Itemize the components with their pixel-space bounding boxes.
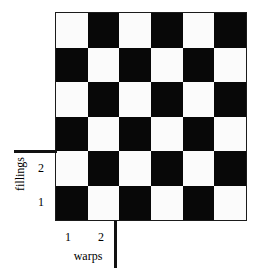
fillings-axis-title: fillings	[14, 148, 26, 200]
fillings-tick-label-1: 1	[33, 196, 49, 208]
weave-cell	[119, 48, 151, 83]
weave-cell	[56, 186, 88, 221]
weave-diagram-figure: fillings 2 1 1 2 warps	[0, 0, 270, 272]
weave-cell	[119, 117, 151, 152]
weave-cell	[119, 186, 151, 221]
weave-cell	[88, 151, 120, 186]
weave-cell	[151, 48, 183, 83]
weave-cell	[119, 151, 151, 186]
warps-axis-title: warps	[59, 250, 117, 262]
weave-cell	[119, 82, 151, 117]
weave-cell	[214, 186, 246, 221]
weave-cell	[56, 82, 88, 117]
weave-cell	[183, 151, 215, 186]
weave-cell	[151, 151, 183, 186]
weave-cell	[56, 48, 88, 83]
weave-cell	[88, 13, 120, 48]
weave-cell	[88, 186, 120, 221]
weave-cell	[151, 13, 183, 48]
weave-cell	[56, 151, 88, 186]
weave-cell	[214, 117, 246, 152]
weave-cell	[56, 13, 88, 48]
weave-cell	[119, 13, 151, 48]
weave-cell	[183, 13, 215, 48]
warps-tick-label-1: 1	[60, 231, 76, 243]
weave-cell	[183, 82, 215, 117]
weave-cell	[214, 13, 246, 48]
weave-grid	[55, 12, 247, 221]
weave-cell	[183, 186, 215, 221]
weave-cell	[183, 117, 215, 152]
weave-cell	[151, 82, 183, 117]
weave-cell	[151, 186, 183, 221]
weave-cell	[183, 48, 215, 83]
warps-tick-label-2: 2	[93, 231, 109, 243]
weave-cell	[88, 117, 120, 152]
weave-cell	[214, 151, 246, 186]
weave-cell	[88, 82, 120, 117]
fillings-tick-label-2: 2	[33, 162, 49, 174]
weave-cell	[214, 48, 246, 83]
weave-cell	[88, 48, 120, 83]
weave-cell	[214, 82, 246, 117]
weave-cell	[56, 117, 88, 152]
weave-cell	[151, 117, 183, 152]
